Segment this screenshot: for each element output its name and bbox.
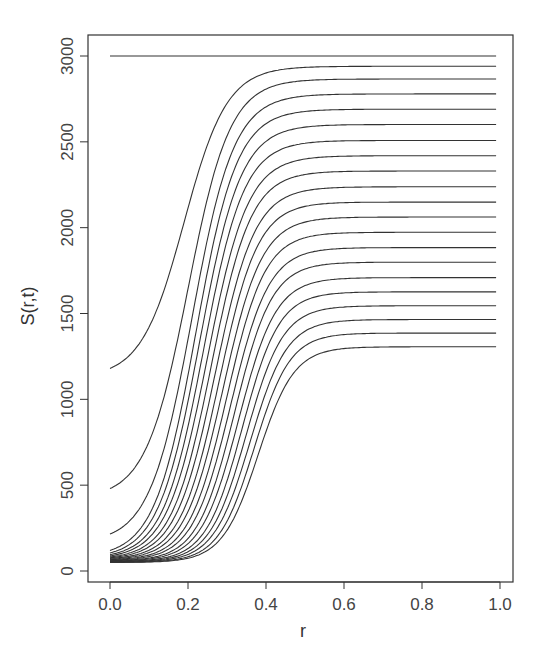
y-tick-label: 1500: [58, 295, 77, 333]
series-line-t14: [110, 262, 496, 561]
x-tick-label: 0.8: [410, 595, 434, 614]
series-line-t12: [110, 232, 496, 559]
x-tick-label: 0.2: [176, 595, 200, 614]
series-line-t5: [110, 125, 496, 554]
series-line-t20: [110, 347, 496, 563]
y-tick-label: 500: [58, 471, 77, 499]
series-line-t13: [110, 248, 496, 561]
series-line-t9: [110, 187, 496, 558]
series-line-t3: [110, 94, 496, 534]
y-axis-title: S(r,t): [18, 287, 38, 326]
y-tick-label: 1000: [58, 380, 77, 418]
chart: 0.00.20.40.60.81.0 050010001500200025003…: [0, 0, 544, 665]
y-axis: 050010001500200025003000: [58, 37, 88, 576]
x-tick-label: 0.4: [254, 595, 278, 614]
y-tick-label: 3000: [58, 37, 77, 75]
x-tick-label: 0.0: [98, 595, 122, 614]
x-tick-label: 1.0: [488, 595, 512, 614]
x-axis-title: r: [300, 621, 306, 641]
y-tick-label: 2000: [58, 209, 77, 247]
series-line-t15: [110, 278, 496, 561]
plot-frame: [88, 35, 513, 582]
x-tick-label: 0.6: [332, 595, 356, 614]
y-tick-label: 0: [58, 566, 77, 575]
series-line-t18: [110, 320, 496, 563]
series-lines: [110, 56, 496, 562]
x-axis: 0.00.20.40.60.81.0: [98, 582, 512, 614]
y-tick-label: 2500: [58, 123, 77, 161]
